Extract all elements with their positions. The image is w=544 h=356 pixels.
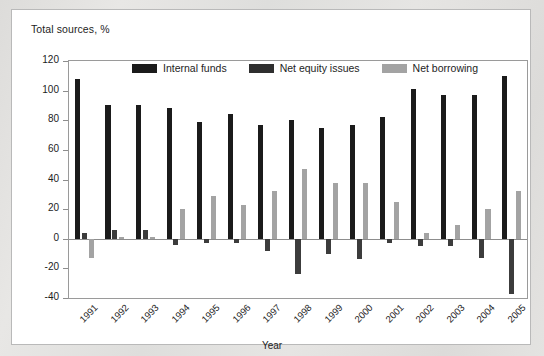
bar-2003-internal xyxy=(441,95,446,239)
bar-2002-equity xyxy=(418,239,423,246)
x-axis-tick-label: 1995 xyxy=(193,302,222,331)
bar-2005-equity xyxy=(509,239,514,294)
x-axis-tick-label: 2001 xyxy=(376,302,405,331)
bar-2001-borrow xyxy=(394,202,399,239)
y-axis: 120100806040200-20-40 xyxy=(12,60,68,299)
x-axis-tick-label: 1994 xyxy=(163,302,192,331)
bar-1998-internal xyxy=(289,120,294,239)
bar-1994-internal xyxy=(167,108,172,238)
bar-2002-internal xyxy=(411,89,416,239)
bar-1995-equity xyxy=(204,239,209,243)
chart-legend: Internal fundsNet equity issuesNet borro… xyxy=(132,60,478,76)
x-axis: 1991199219931994199519961997199819992000… xyxy=(69,300,527,344)
y-axis-tick-label: 80 xyxy=(48,113,59,124)
bar-2004-internal xyxy=(472,95,477,239)
bar-1991-equity xyxy=(82,233,87,239)
bar-1994-borrow xyxy=(180,209,185,239)
bar-2005-borrow xyxy=(516,191,521,238)
x-axis-tick-label: 1997 xyxy=(254,302,283,331)
bar-1997-equity xyxy=(265,239,270,251)
bar-2004-borrow xyxy=(485,209,490,239)
bar-2001-internal xyxy=(380,117,385,239)
y-axis-tick-label: 100 xyxy=(42,84,59,95)
bar-1999-internal xyxy=(319,128,324,239)
bar-1996-equity xyxy=(234,239,239,243)
bar-2003-equity xyxy=(448,239,453,246)
bar-1998-equity xyxy=(295,239,300,275)
bar-1999-borrow xyxy=(333,183,338,239)
bar-1992-borrow xyxy=(119,237,124,239)
bar-1997-internal xyxy=(258,125,263,239)
bar-1994-equity xyxy=(173,239,178,245)
legend-swatch-equity xyxy=(249,64,274,73)
bar-1993-internal xyxy=(136,105,141,238)
bar-2000-borrow xyxy=(363,183,368,239)
bar-2005-internal xyxy=(502,76,507,239)
y-axis-tick-label: 0 xyxy=(53,232,59,243)
bar-2004-equity xyxy=(479,239,484,258)
figure-panel: Total sources, % 120100806040200-20-40 I… xyxy=(11,9,531,345)
bar-1995-internal xyxy=(197,122,202,239)
bar-1996-internal xyxy=(228,114,233,238)
legend-label-borrow: Net borrowing xyxy=(413,62,478,74)
bar-1995-borrow xyxy=(211,196,216,239)
x-axis-title: Year xyxy=(12,340,532,351)
bar-1993-equity xyxy=(143,230,148,239)
legend-item-equity: Net equity issues xyxy=(249,62,360,74)
x-axis-tick-label: 2005 xyxy=(499,302,528,331)
x-axis-tick-label: 2004 xyxy=(468,302,497,331)
plot-area xyxy=(69,61,527,298)
bar-1992-equity xyxy=(112,230,117,239)
bar-2001-equity xyxy=(387,239,392,243)
bar-2000-internal xyxy=(350,125,355,239)
bar-1991-internal xyxy=(75,79,80,239)
x-axis-tick-label: 1996 xyxy=(224,302,253,331)
x-axis-tick-label: 1991 xyxy=(71,302,100,331)
y-axis-tick-label: 120 xyxy=(42,54,59,65)
y-axis-caption: Total sources, % xyxy=(31,23,110,35)
y-axis-tick-label: 40 xyxy=(48,173,59,184)
figure-page: Total sources, % 120100806040200-20-40 I… xyxy=(0,0,544,356)
bar-2003-borrow xyxy=(455,225,460,238)
x-axis-tick-label: 2000 xyxy=(346,302,375,331)
legend-swatch-internal xyxy=(132,64,157,73)
bar-2000-equity xyxy=(357,239,362,260)
legend-label-internal: Internal funds xyxy=(163,62,227,74)
y-axis-tick-label: 20 xyxy=(48,202,59,213)
x-axis-tick-label: 1993 xyxy=(132,302,161,331)
bar-1992-internal xyxy=(105,105,110,238)
y-axis-tick-label: -20 xyxy=(45,261,59,272)
x-axis-tick-label: 2003 xyxy=(437,302,466,331)
x-axis-tick-label: 2002 xyxy=(407,302,436,331)
bar-2002-borrow xyxy=(424,233,429,239)
x-axis-tick-label: 1999 xyxy=(315,302,344,331)
legend-label-equity: Net equity issues xyxy=(280,62,360,74)
legend-item-borrow: Net borrowing xyxy=(382,62,478,74)
legend-item-internal: Internal funds xyxy=(132,62,227,74)
bar-1998-borrow xyxy=(302,169,307,239)
y-axis-tick-label: -40 xyxy=(45,291,59,302)
bar-1999-equity xyxy=(326,239,331,254)
x-axis-tick-label: 1998 xyxy=(285,302,314,331)
bar-1996-borrow xyxy=(241,205,246,239)
x-axis-tick-label: 1992 xyxy=(102,302,131,331)
y-axis-tick-label: 60 xyxy=(48,143,59,154)
legend-swatch-borrow xyxy=(382,64,407,73)
bar-1997-borrow xyxy=(272,191,277,238)
bar-1993-borrow xyxy=(150,237,155,239)
bar-1991-borrow xyxy=(89,239,94,258)
